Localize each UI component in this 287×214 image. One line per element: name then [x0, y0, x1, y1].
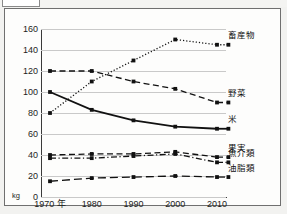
x-axis-tick-label: 2010 — [195, 199, 239, 209]
data-point-marker — [173, 174, 177, 178]
y-axis-tick-label: 120 — [23, 67, 38, 76]
legend-marker — [227, 175, 231, 179]
data-point-marker — [173, 152, 177, 156]
data-point-marker — [132, 154, 136, 158]
x-axis-tick-label: 2000 — [153, 199, 197, 209]
legend-label-2: 野菜 — [228, 89, 246, 98]
data-point-marker — [48, 179, 52, 183]
y-axis-tick-label: 40 — [28, 151, 38, 160]
data-point-marker — [132, 59, 136, 63]
data-point-marker — [90, 156, 94, 160]
data-point-marker — [48, 156, 52, 160]
legend-marker — [227, 101, 231, 105]
y-axis-tick-label: 100 — [23, 88, 38, 97]
data-point-marker — [90, 69, 94, 73]
series-line — [50, 71, 217, 103]
series-line — [50, 92, 217, 129]
data-point-marker — [48, 69, 52, 73]
y-axis-tick-label: 20 — [28, 172, 38, 181]
y-axis-tick-labels: 020406080100120140160 — [9, 29, 38, 199]
data-point-marker — [48, 111, 52, 115]
legend-label-3: 米 — [228, 115, 237, 124]
legend-label-1: 畜産物 — [228, 31, 255, 40]
x-axis-tick-label: 1970 年 — [28, 199, 72, 209]
data-point-marker — [90, 108, 94, 112]
data-point-marker — [90, 80, 94, 84]
data-point-marker — [90, 176, 94, 180]
data-point-marker — [132, 80, 136, 84]
y-axis-unit-label: kg — [12, 191, 20, 200]
data-point-marker — [48, 90, 52, 94]
screenshot-root: 020406080100120140160 kg 1970 年198019902… — [0, 0, 287, 214]
legend-marker — [227, 43, 231, 47]
data-point-marker — [173, 87, 177, 91]
page-top-strip — [0, 0, 287, 7]
data-point-marker — [90, 152, 94, 156]
data-point-marker — [173, 125, 177, 129]
y-axis-tick-label: 80 — [28, 109, 38, 118]
x-axis-tick-label: 1990 — [112, 199, 156, 209]
legend-label-5: 魚介類 — [228, 149, 255, 158]
chart-series-layer — [41, 29, 226, 199]
page-number-box — [2, 0, 40, 7]
data-point-marker — [132, 118, 136, 122]
y-axis-tick-label: 160 — [23, 25, 38, 34]
legend-marker — [227, 127, 231, 131]
y-axis-tick-label: 140 — [23, 46, 38, 55]
x-axis-tick-label: 1980 — [70, 199, 114, 209]
data-point-marker — [132, 175, 136, 179]
legend-label-6: 油脂類 — [228, 164, 255, 173]
y-axis-tick-label: 60 — [28, 130, 38, 139]
data-point-marker — [173, 38, 177, 42]
